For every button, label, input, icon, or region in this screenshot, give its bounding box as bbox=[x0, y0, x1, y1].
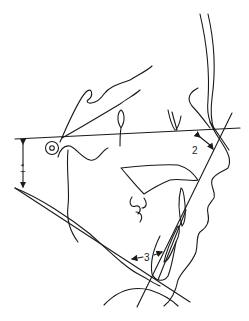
lower-incisor-axis bbox=[158, 210, 186, 280]
measure-3-arrow-right bbox=[154, 252, 162, 255]
facial-line bbox=[137, 113, 232, 307]
label-1: 1 bbox=[20, 163, 26, 174]
porion-ring-inner bbox=[50, 146, 55, 151]
molar-tooth bbox=[130, 197, 146, 222]
cranial-base bbox=[60, 66, 152, 142]
label-2: 2 bbox=[192, 145, 198, 156]
orbit-mark bbox=[168, 110, 181, 130]
nasal-bone bbox=[189, 88, 210, 128]
measure-3-arrow-left bbox=[132, 257, 143, 259]
cephalometric-diagram: 1 2 3 bbox=[0, 0, 249, 321]
label-3: 3 bbox=[144, 252, 150, 263]
condyle-outline bbox=[58, 146, 108, 160]
porion-ring-outer bbox=[46, 142, 59, 155]
frankfort-horizontal-line bbox=[15, 128, 240, 139]
measure-2-arrow bbox=[200, 137, 210, 145]
measure-2-arrow-b bbox=[210, 145, 213, 149]
pterygomaxillary-fissure bbox=[118, 110, 124, 146]
soft-tissue-profile bbox=[164, 14, 230, 306]
symphysis bbox=[151, 236, 176, 280]
frontal-bone-profile bbox=[208, 14, 214, 130]
palate bbox=[121, 165, 198, 194]
